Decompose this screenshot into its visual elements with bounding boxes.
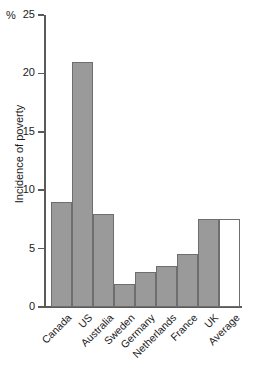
bar-average xyxy=(219,219,240,307)
bar-netherlands xyxy=(156,266,177,307)
bar-australia xyxy=(93,214,114,307)
bar-france xyxy=(177,254,198,307)
bar-uk xyxy=(198,219,219,307)
poverty-bar-chart: % Incidence of poverty 0510152025 Canada… xyxy=(0,0,253,375)
bar-us xyxy=(72,62,93,307)
bar-sweden xyxy=(114,284,135,307)
bar-canada xyxy=(51,202,72,307)
bar-germany xyxy=(135,272,156,307)
